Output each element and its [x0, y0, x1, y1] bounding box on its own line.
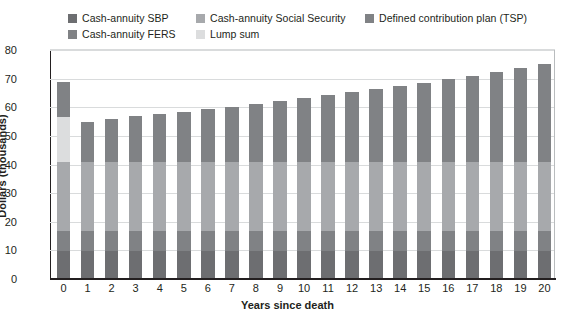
bar-segment [201, 231, 215, 251]
bar-segment [297, 162, 311, 231]
bar[interactable] [321, 95, 335, 279]
bar-segment [81, 231, 95, 251]
bar-segment [369, 89, 383, 162]
bar[interactable] [369, 89, 383, 279]
legend-item-label: Cash-annuity FERS [82, 29, 176, 40]
x-axis-tick-label: 0 [60, 282, 66, 294]
bar-segment [369, 162, 383, 231]
bar[interactable] [538, 64, 552, 279]
bar[interactable] [393, 86, 407, 279]
bar[interactable] [466, 76, 480, 279]
bar-segment [177, 112, 191, 162]
x-axis-tick-label: 11 [322, 282, 333, 294]
bar-segment [177, 251, 191, 279]
bar-segment [321, 162, 335, 231]
bar-segment [105, 251, 119, 279]
bar-segment [345, 251, 359, 279]
bar-segment [57, 251, 71, 279]
bar[interactable] [153, 114, 167, 279]
bar-segment [201, 109, 215, 162]
bar-segment [57, 231, 71, 251]
bar-segment [321, 251, 335, 279]
x-axis-tick-label: 3 [133, 282, 139, 294]
bar-segment [369, 231, 383, 251]
x-axis-tick-label: 15 [418, 282, 430, 294]
x-axis-tick-label: 7 [229, 282, 235, 294]
bar-segment [225, 231, 239, 251]
bar-segment [466, 76, 480, 163]
bar-segment [345, 92, 359, 162]
x-axis-tick-label: 1 [85, 282, 91, 294]
bar[interactable] [417, 83, 431, 279]
bar[interactable] [81, 122, 95, 279]
bar-segment [417, 231, 431, 251]
legend-item[interactable]: Cash-annuity SBP [68, 11, 176, 25]
bar-segment [417, 162, 431, 231]
bar[interactable] [297, 98, 311, 279]
x-axis-tick-labels: 01234567891011121314151617181920 [50, 282, 555, 298]
legend-swatch-icon [196, 30, 205, 39]
bar-segment [538, 251, 552, 279]
bar[interactable] [345, 92, 359, 279]
bar-segment [57, 162, 71, 231]
bar-segment [442, 231, 456, 251]
bar[interactable] [105, 119, 119, 279]
legend-column: Defined contribution plan (TSP) [365, 11, 527, 27]
bar[interactable] [57, 82, 71, 279]
x-axis-tick-label: 18 [490, 282, 502, 294]
bar-segment [225, 162, 239, 231]
bar-segment [129, 231, 143, 251]
bar-segment [297, 251, 311, 279]
bar[interactable] [249, 104, 263, 279]
bar-segment [442, 162, 456, 231]
x-axis-tick-label: 6 [205, 282, 211, 294]
bar-segment [538, 231, 552, 251]
bar-segment [466, 231, 480, 251]
legend-item-label: Defined contribution plan (TSP) [379, 13, 527, 24]
x-axis-tick-label: 19 [514, 282, 526, 294]
legend-swatch-icon [196, 14, 205, 23]
bar-segment [273, 162, 287, 231]
bar-segment [345, 162, 359, 231]
bar-segment [514, 68, 528, 162]
bar-segment [249, 251, 263, 279]
legend-item[interactable]: Cash-annuity FERS [68, 27, 176, 41]
legend-item[interactable]: Cash-annuity Social Security [196, 11, 346, 25]
x-axis-tick-label: 16 [442, 282, 454, 294]
bar[interactable] [273, 101, 287, 279]
axis-right-line [554, 50, 555, 278]
bar-segment [297, 98, 311, 162]
bar[interactable] [129, 116, 143, 279]
legend-item[interactable]: Defined contribution plan (TSP) [365, 11, 527, 25]
x-axis-tick-label: 17 [466, 282, 478, 294]
bar-segment [514, 162, 528, 231]
x-axis-tick-label: 14 [394, 282, 406, 294]
x-axis-line [50, 278, 556, 280]
bar-segment [393, 162, 407, 231]
y-axis-tick-label: 0 [0, 273, 17, 285]
bar-segment [466, 251, 480, 279]
bar-segment [249, 231, 263, 251]
legend-item-label: Lump sum [210, 29, 259, 40]
bar-segment [442, 251, 456, 279]
bar[interactable] [442, 79, 456, 279]
bar[interactable] [225, 107, 239, 279]
bar[interactable] [177, 112, 191, 279]
x-axis-tick-label: 9 [277, 282, 283, 294]
bar[interactable] [490, 72, 504, 279]
x-axis-tick-label: 8 [253, 282, 259, 294]
bar[interactable] [514, 68, 528, 279]
legend-swatch-icon [68, 30, 77, 39]
bar-segment [538, 162, 552, 231]
legend-item[interactable]: Lump sum [196, 27, 346, 41]
legend-swatch-icon [68, 14, 77, 23]
x-axis-tick-label: 20 [538, 282, 550, 294]
bar-segment [369, 251, 383, 279]
bar-segment [442, 79, 456, 162]
bar-segment [490, 231, 504, 251]
bar-segment [105, 162, 119, 231]
bar[interactable] [201, 109, 215, 279]
legend-column: Cash-annuity SBPCash-annuity FERS [68, 11, 176, 43]
bar-segment [514, 251, 528, 279]
plot-area-wrapper [50, 50, 555, 279]
